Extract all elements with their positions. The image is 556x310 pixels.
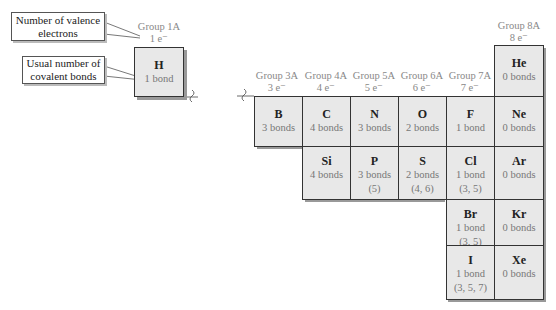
element-bonds: 0 bonds: [495, 267, 543, 281]
element-cell-n: N 3 bonds: [350, 96, 399, 147]
cell-shadow: [137, 97, 187, 100]
element-bonds: 3 bonds: [255, 121, 302, 135]
element-symbol: Br: [447, 207, 494, 221]
group-header-1a: Group 1A 1 e⁻: [134, 21, 184, 45]
element-bonds: 0 bonds: [495, 221, 543, 235]
group-electrons: 5 e⁻: [349, 82, 399, 94]
group-name: Group 3A: [252, 70, 302, 82]
element-cell-xe: Xe 0 bonds: [494, 245, 544, 300]
callout-bonds-label: Usual number of covalent bonds: [23, 57, 104, 83]
group-electrons: 1 e⁻: [134, 33, 184, 45]
element-symbol: Kr: [495, 207, 543, 221]
group-header-5a: Group 5A 5 e⁻: [349, 70, 399, 94]
element-bonds: 2 bonds: [399, 168, 446, 182]
element-bonds: 3 bonds: [351, 121, 398, 135]
element-symbol: F: [447, 107, 494, 121]
element-bonds: 1 bond: [135, 72, 183, 86]
callout-valence-label: Number of valence electrons: [12, 14, 104, 40]
element-symbol: Cl: [447, 154, 494, 168]
group-electrons: 8 e⁻: [494, 32, 544, 44]
element-cell-c: C 4 bonds: [302, 96, 351, 147]
element-bonds: 1 bond: [447, 221, 494, 235]
element-bonds: 4 bonds: [303, 168, 350, 182]
element-bonds: 2 bonds: [399, 121, 446, 135]
element-bonds: 1 bond: [447, 121, 494, 135]
group-name: Group 8A: [494, 20, 544, 32]
element-bonds: 0 bonds: [495, 70, 543, 84]
element-cell-h: H 1 bond: [134, 47, 184, 97]
group-name: Group 6A: [397, 70, 447, 82]
element-cell-i: I 1 bond (3, 5, 7): [446, 245, 495, 300]
group-header-6a: Group 6A 6 e⁻: [397, 70, 447, 94]
element-bonds: 4 bonds: [303, 121, 350, 135]
group-name: Group 1A: [134, 21, 184, 33]
callout-covalent-bonds: Usual number of covalent bonds: [22, 56, 105, 84]
element-cell-si: Si 4 bonds: [302, 146, 351, 200]
group-header-3a: Group 3A 3 e⁻: [252, 70, 302, 94]
element-symbol: P: [351, 154, 398, 168]
callout-valence-electrons: Number of valence electrons: [11, 12, 105, 41]
group-header-4a: Group 4A 4 e⁻: [301, 70, 351, 94]
element-cell-f: F 1 bond: [446, 96, 495, 147]
element-symbol: N: [351, 107, 398, 121]
element-symbol: H: [135, 58, 183, 72]
element-bonds: 0 bonds: [495, 121, 543, 135]
element-cell-br: Br 1 bond (3, 5): [446, 199, 495, 246]
element-symbol: C: [303, 107, 350, 121]
group-name: Group 4A: [301, 70, 351, 82]
group-electrons: 4 e⁻: [301, 82, 351, 94]
element-symbol: He: [495, 56, 543, 70]
group-electrons: 3 e⁻: [252, 82, 302, 94]
element-cell-s: S 2 bonds (4, 6): [398, 146, 447, 200]
group-name: Group 7A: [445, 70, 495, 82]
element-bonds: 1 bond: [447, 168, 494, 182]
element-symbol: I: [447, 253, 494, 267]
element-symbol: Xe: [495, 253, 543, 267]
element-alt-bonds: (4, 6): [399, 182, 446, 196]
element-cell-ar: Ar 0 bonds: [494, 146, 544, 200]
element-symbol: Ne: [495, 107, 543, 121]
element-alt-bonds: (3, 5): [447, 182, 494, 196]
element-cell-kr: Kr 0 bonds: [494, 199, 544, 246]
element-cell-o: O 2 bonds: [398, 96, 447, 147]
element-cell-p: P 3 bonds (5): [350, 146, 399, 200]
element-cell-ne: Ne 0 bonds: [494, 96, 544, 147]
element-bonds: 3 bonds: [351, 168, 398, 182]
group-header-8a: Group 8A 8 e⁻: [494, 20, 544, 44]
element-alt-bonds: (5): [351, 182, 398, 196]
group-electrons: 6 e⁻: [397, 82, 447, 94]
element-bonds: 1 bond: [447, 267, 494, 281]
element-symbol: B: [255, 107, 302, 121]
element-symbol: Si: [303, 154, 350, 168]
cell-shadow: [184, 50, 187, 100]
element-alt-bonds: (3, 5, 7): [447, 281, 494, 295]
group-header-7a: Group 7A 7 e⁻: [445, 70, 495, 94]
element-symbol: O: [399, 107, 446, 121]
element-symbol: S: [399, 154, 446, 168]
element-symbol: Ar: [495, 154, 543, 168]
element-cell-he: He 0 bonds: [494, 45, 544, 97]
element-cell-b: B 3 bonds: [254, 96, 303, 147]
group-name: Group 5A: [349, 70, 399, 82]
element-bonds: 0 bonds: [495, 168, 543, 182]
group-electrons: 7 e⁻: [445, 82, 495, 94]
element-cell-cl: Cl 1 bond (3, 5): [446, 146, 495, 200]
